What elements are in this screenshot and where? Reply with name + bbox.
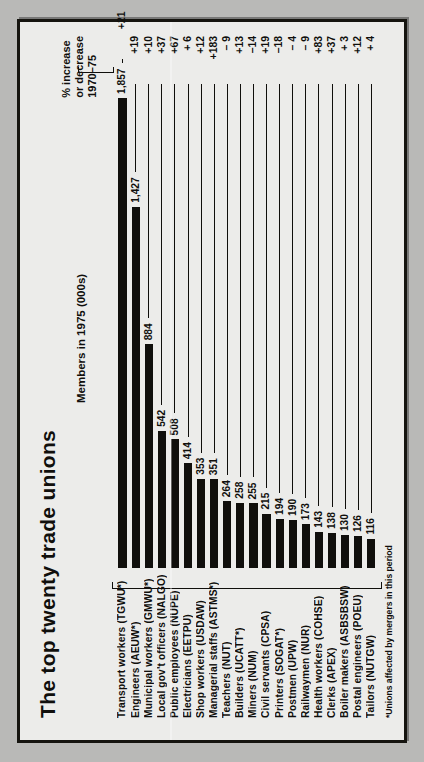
union-name-label: Tailors (NUTGW) [366,568,376,718]
bar-track: 130 [339,82,352,568]
percent-change-label: – 9 [222,34,232,82]
bar-track: 173 [299,82,312,568]
bar-track: 215 [260,82,273,568]
bar-track: 1,857 [116,58,129,569]
union-name-label: Municipal workers (GMWU*) [144,568,154,718]
rotated-figure-wrapper: The top twenty trade unions Members in 1… [17,19,407,743]
percent-change-label: +67 [170,34,180,82]
bar-value-label: 264 [222,480,232,497]
leader-line [174,84,175,413]
table-row: Electricians (EETPU)414+ 6 [181,34,194,718]
table-row: Civil servants (CPSA)215+19 [260,34,273,718]
table-row: Clerks (APEX)138+37 [326,34,339,718]
table-row: Local gov't officers (NALGO)542+37 [155,34,168,718]
bar-value-label: 143 [314,511,324,528]
table-row: Railwaymen (NUR)173– 9 [299,34,312,718]
leader-line [214,84,215,453]
bar [249,504,257,569]
table-row: Engineers (AEUW*)1,427+19 [129,34,142,718]
table-row: Postmen (UPW)190– 4 [286,34,299,718]
percent-change-label: + 4 [366,34,376,82]
percent-change-label: + 6 [183,34,193,82]
bar [197,479,205,568]
bar-track: 138 [326,82,339,568]
table-row: Public employees (NUPE)508+67 [168,34,181,718]
leader-line [279,84,280,493]
union-name-label: Boiler makers (ASBSBSW) [340,568,350,718]
leader-line [266,84,267,488]
union-name-label: Public employees (NUPE) [170,568,180,718]
union-name-label: Transport workers (TGWU*) [117,568,127,718]
percent-column-caption: % increase or decrease 1970–75 [60,36,99,98]
percent-change-label: +19 [130,34,140,82]
percent-change-label: +13 [235,34,245,82]
percent-column-bracket [78,72,114,73]
bar [171,439,179,568]
union-name-label: Postmen (UPW) [288,568,298,718]
bar-track: 190 [286,82,299,568]
bar [289,520,297,568]
union-name-label: Miners (NUM) [248,568,258,718]
bar [276,519,284,568]
union-name-label: Clerks (APEX) [327,568,337,718]
bar [158,431,166,568]
leader-line [332,84,333,507]
leader-line [305,84,306,498]
bar-value-label: 190 [288,499,298,516]
bar [367,539,375,568]
percent-change-label: –14 [248,34,258,82]
percent-change-label: +12 [353,34,363,82]
bar-track: 264 [221,82,234,568]
leader-line [201,84,202,453]
bar [302,524,310,568]
union-name-label: Railwaymen (NUR) [301,568,311,718]
bar-value-label: 130 [340,514,350,531]
leader-line [318,84,319,506]
table-row: Transport workers (TGWU*)1,857+21 [116,34,129,718]
union-name-label: Managerial staffs (ASTMS*) [209,568,219,718]
chart-figure: The top twenty trade unions Members in 1… [17,19,407,743]
table-row: Teachers (NUT)264– 9 [221,34,234,718]
bar-value-label: 542 [157,410,167,427]
bar-track: 255 [247,82,260,568]
page-title: The top twenty trade unions [36,430,60,718]
bar-track: 353 [195,82,208,568]
percent-change-label: +19 [261,34,271,82]
leader-line [135,84,136,172]
bar-track: 258 [234,82,247,568]
leader-line [227,84,228,475]
bar-value-label: 126 [353,515,363,532]
percent-change-label: + 3 [340,34,350,82]
table-row: Builders (UCATT*)258+13 [234,34,247,718]
table-row: Municipal workers (GMWU*)884+10 [142,34,155,718]
bar-track: 116 [365,82,378,568]
leader-line [253,84,254,478]
bar [236,503,244,568]
leader-line [161,84,162,405]
bar [315,532,323,568]
bar [341,535,349,568]
leader-line [292,84,293,494]
percent-caption-line-2: or decrease [73,36,86,98]
bar-value-label: 414 [183,442,193,459]
union-name-label: Shop workers (USDAW) [196,568,206,718]
bar-value-label: 884 [144,323,154,340]
bar-value-label: 116 [366,518,376,534]
union-name-label: Postal engineers (POEU) [353,568,363,718]
bar-track: 884 [142,82,155,568]
table-row: Shop workers (USDAW)353+12 [195,34,208,718]
union-name-label: Builders (UCATT*) [235,568,245,718]
bar-value-label: 215 [261,493,271,510]
bar [328,533,336,568]
bar-track: 194 [273,82,286,568]
union-name-label: Teachers (NUT) [222,568,232,718]
bar-track: 508 [168,82,181,568]
bar-track: 542 [155,82,168,568]
percent-change-label: +37 [157,34,167,82]
bar [354,536,362,568]
leader-line [358,84,359,510]
bar-value-label: 138 [327,512,337,529]
union-name-label: Electricians (EETPU) [183,568,193,718]
bar [145,344,153,568]
union-name-label: Local gov't officers (NALGO) [157,568,167,718]
